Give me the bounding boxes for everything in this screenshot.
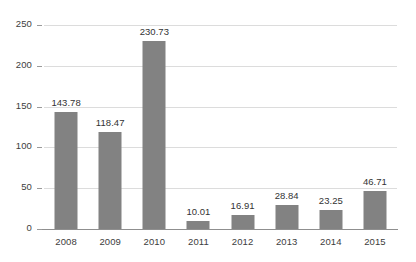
bar[interactable] [187, 221, 210, 229]
y-axis-tick-label: 250 [2, 18, 32, 29]
bar-value-label: 46.71 [363, 176, 387, 187]
x-axis-category-label: 2009 [99, 236, 121, 247]
bar[interactable] [231, 215, 254, 229]
bar[interactable] [143, 41, 166, 229]
bars-group: 143.782008118.472009230.73201010.0120111… [44, 0, 397, 262]
y-axis-tick-label: 0 [2, 222, 32, 233]
bar-value-label: 23.25 [319, 195, 343, 206]
x-axis-category-label: 2008 [55, 236, 77, 247]
x-axis-category-label: 2010 [144, 236, 166, 247]
x-axis-category-label: 2014 [320, 236, 342, 247]
bar-group: 46.712015 [353, 0, 397, 262]
bar-group: 143.782008 [44, 0, 88, 262]
x-axis-category-label: 2012 [232, 236, 254, 247]
bar-group: 23.252014 [309, 0, 353, 262]
y-axis-tick-mark [37, 229, 42, 230]
bar[interactable] [275, 205, 298, 229]
bar-group: 10.012011 [176, 0, 220, 262]
bar-group: 230.732010 [132, 0, 176, 262]
y-axis-tick-mark [37, 188, 42, 189]
bar-group: 118.472009 [88, 0, 132, 262]
x-axis-category-label: 2013 [276, 236, 298, 247]
y-axis-tick-label: 100 [2, 140, 32, 151]
bar-group: 28.842013 [265, 0, 309, 262]
bar-group: 16.912012 [221, 0, 265, 262]
bar[interactable] [99, 132, 122, 229]
bar-value-label: 16.91 [231, 200, 255, 211]
bar-value-label: 10.01 [186, 206, 210, 217]
bar-value-label: 28.84 [275, 190, 299, 201]
y-axis-tick-mark [37, 147, 42, 148]
bar-value-label: 230.73 [140, 26, 169, 37]
y-axis-tick-mark [37, 66, 42, 67]
x-axis-category-label: 2015 [364, 236, 386, 247]
x-axis-category-label: 2011 [188, 236, 209, 247]
bar-chart: 050100150200250 143.782008118.472009230.… [0, 0, 416, 262]
bar[interactable] [319, 210, 342, 229]
y-axis-tick-label: 150 [2, 100, 32, 111]
y-axis-tick-label: 200 [2, 59, 32, 70]
bar-value-label: 143.78 [51, 97, 80, 108]
bar[interactable] [55, 112, 78, 229]
bar-value-label: 118.47 [96, 117, 125, 128]
bar[interactable] [363, 191, 386, 229]
y-axis-tick-mark [37, 107, 42, 108]
y-axis-tick-mark [37, 25, 42, 26]
y-axis-tick-label: 50 [2, 181, 32, 192]
